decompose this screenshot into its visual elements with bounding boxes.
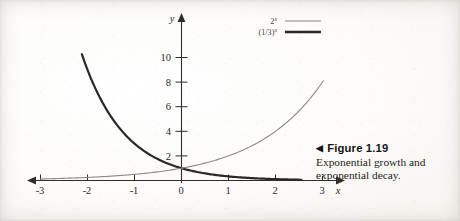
legend-label-decay: (1/3)x bbox=[259, 27, 278, 37]
left-triangle-icon: ◀ bbox=[316, 144, 323, 153]
curve-2-pow-x-final bbox=[41, 81, 324, 179]
legend-entry-growth: 2x bbox=[270, 16, 321, 26]
chart-legend: 2x (1/3)x bbox=[225, 10, 345, 50]
legend-label-growth: 2x bbox=[270, 16, 277, 26]
legend-entry-decay: (1/3)x bbox=[259, 27, 322, 37]
figure-caption-heading: ◀ Figure 1.19 bbox=[316, 142, 458, 155]
figure-page: -3 -2 -1 0 1 2 3 x 2 4 6 bbox=[0, 0, 460, 221]
figure-caption: ◀ Figure 1.19 Exponential growth and exp… bbox=[316, 142, 458, 183]
figure-caption-text: Exponential growth and exponential decay… bbox=[316, 156, 456, 183]
figure-number-label: Figure 1.19 bbox=[327, 142, 388, 155]
